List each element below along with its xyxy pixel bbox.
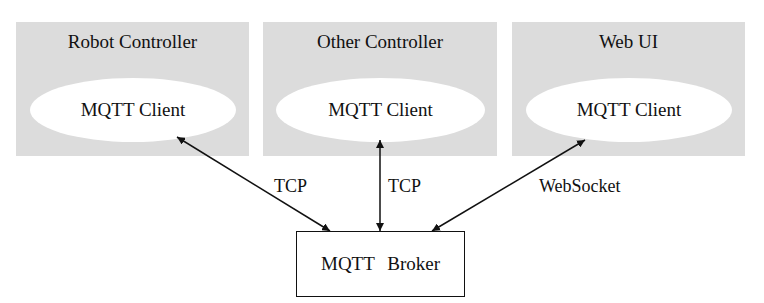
mqtt-broker-label: MQTT Broker (321, 253, 440, 275)
websocket-label: WebSocket (539, 176, 621, 196)
tcp-label-other: TCP (388, 176, 421, 196)
tcp-arrow-robot (177, 137, 330, 231)
mqtt-broker-box: MQTT Broker (296, 231, 465, 297)
tcp-label-robot: TCP (274, 176, 307, 196)
